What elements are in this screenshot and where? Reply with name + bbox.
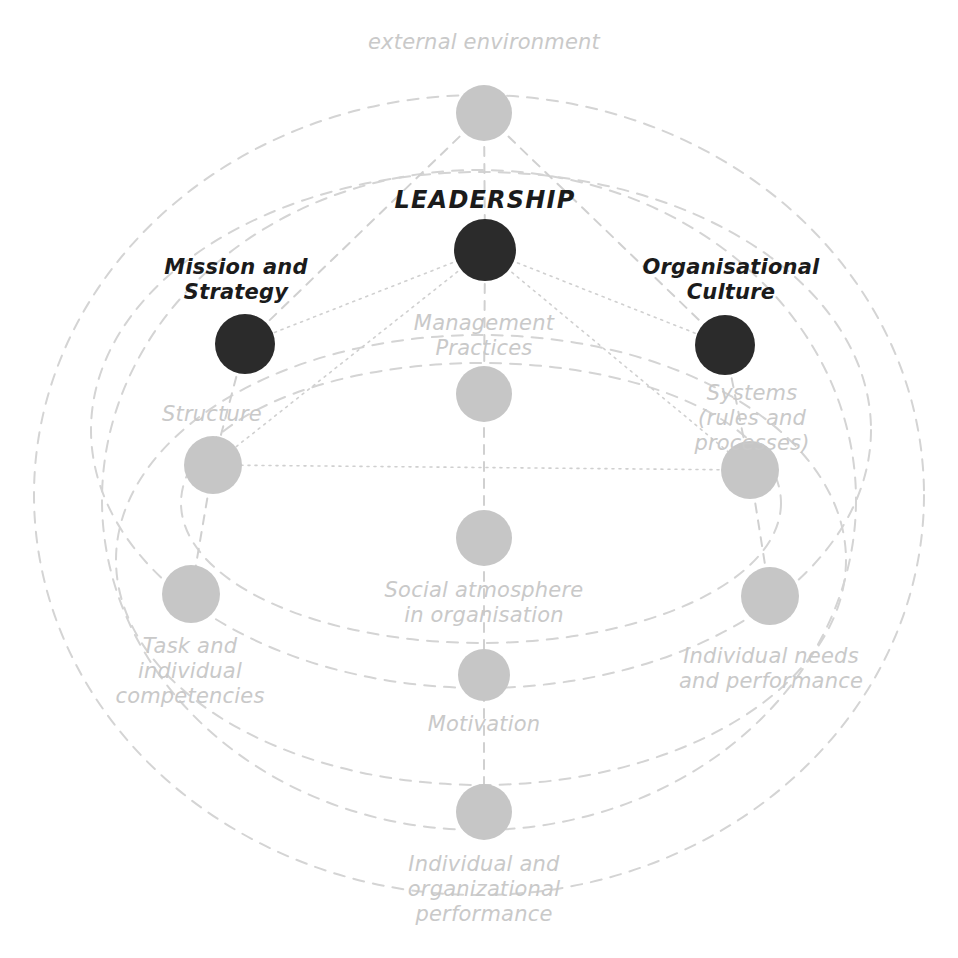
- node-circle-leadership[interactable]: [454, 219, 516, 281]
- external-to-culture: [484, 113, 725, 345]
- node-circle-layer: [162, 85, 799, 840]
- diagram-canvas: [0, 0, 958, 958]
- leadership-to-culture: [485, 250, 725, 345]
- leadership-to-mission: [245, 250, 485, 344]
- structure-to-systems: [213, 465, 750, 470]
- node-circle-organisational-culture[interactable]: [695, 315, 755, 375]
- node-circle-management-practices[interactable]: [456, 366, 512, 422]
- node-circle-individual-needs-and-performance[interactable]: [741, 567, 799, 625]
- outer-boundary-ellipse: [34, 95, 924, 895]
- node-circle-task-and-individual-competencies[interactable]: [162, 565, 220, 623]
- node-circle-mission-and-strategy[interactable]: [215, 314, 275, 374]
- node-circle-systems[interactable]: [721, 441, 779, 499]
- node-circle-individual-and-organizational-performance[interactable]: [456, 784, 512, 840]
- boundary-ellipse-layer: [34, 95, 924, 895]
- node-circle-motivation[interactable]: [458, 649, 510, 701]
- node-circle-structure[interactable]: [184, 436, 242, 494]
- organisational-model-diagram: external environmentLEADERSHIPMission an…: [0, 0, 958, 958]
- connector-layer: [191, 113, 770, 812]
- external-to-mission: [245, 113, 484, 344]
- node-circle-external-environment[interactable]: [456, 85, 512, 141]
- node-circle-social-atmosphere[interactable]: [456, 510, 512, 566]
